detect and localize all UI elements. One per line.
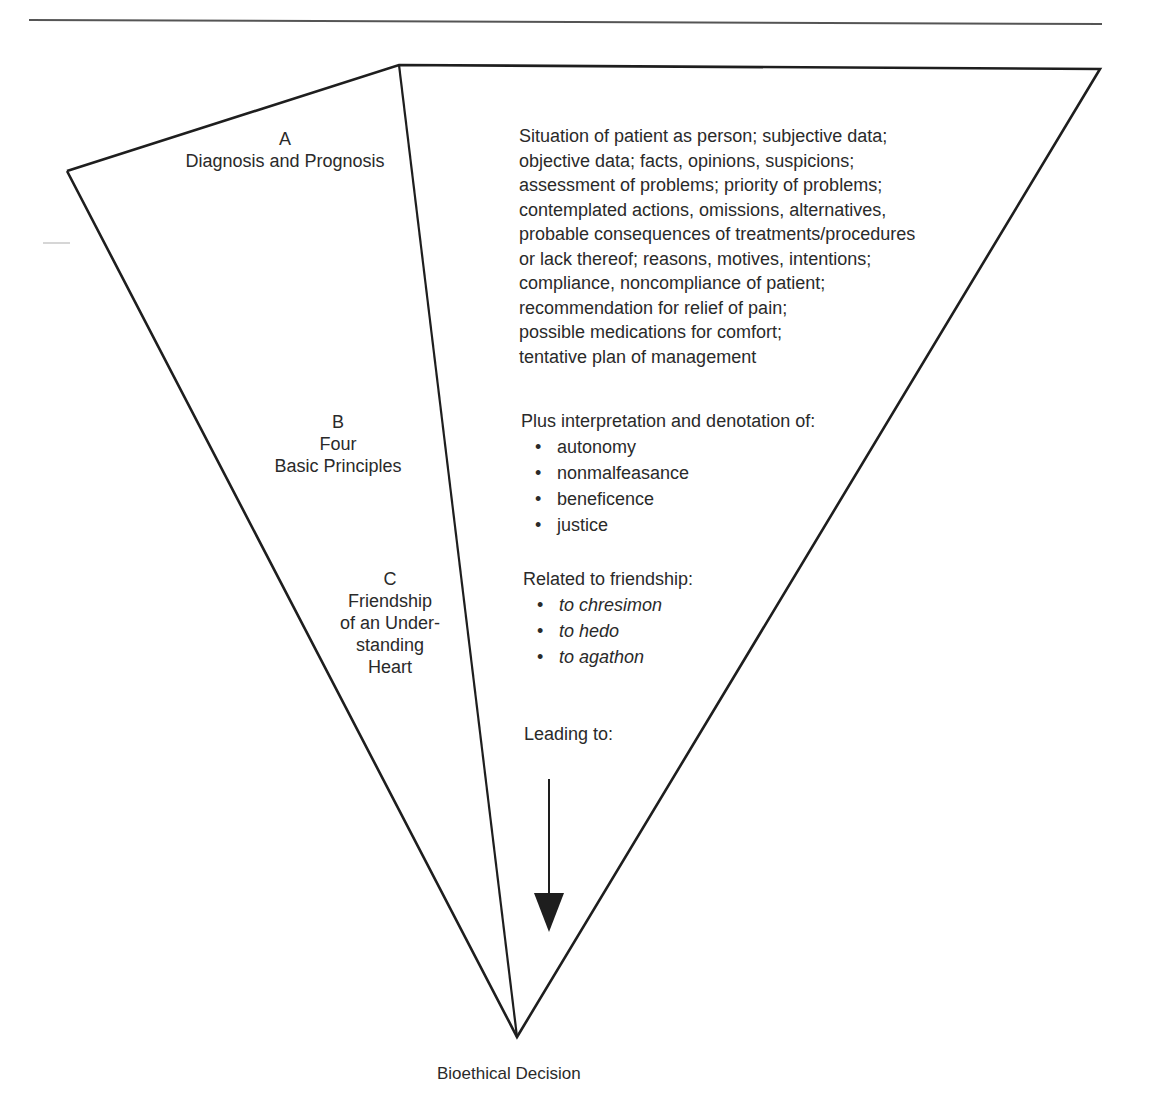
list-item: to agathon [537, 644, 693, 670]
list-item: to chresimon [537, 592, 693, 618]
section-a-label: A Diagnosis and Prognosis [160, 128, 410, 172]
detail-line: or lack thereof; reasons, motives, inten… [519, 247, 915, 272]
outcome-label: Bioethical Decision [437, 1062, 581, 1087]
section-c-details: Related to friendship: to chresimon to h… [523, 566, 693, 670]
leading-to-label: Leading to: [524, 722, 613, 747]
principles-list: autonomy nonmalfeasance beneficence just… [521, 434, 815, 538]
list-item: to hedo [537, 618, 693, 644]
friendship-list: to chresimon to hedo to agathon [523, 592, 693, 670]
principles-heading: Plus interpretation and denotation of: [521, 408, 815, 434]
section-b-letter: B [248, 411, 428, 433]
section-b-title-line2: Basic Principles [248, 455, 428, 477]
section-b-label: B Four Basic Principles [248, 411, 428, 477]
section-b-details: Plus interpretation and denotation of: a… [521, 408, 815, 538]
list-item: justice [535, 512, 815, 538]
list-item: autonomy [535, 434, 815, 460]
top-rule [29, 20, 1102, 24]
section-c-label: C Friendship of an Under- standing Heart [330, 568, 450, 678]
section-c-letter: C [330, 568, 450, 590]
section-c-title-line2: of an Under- [330, 612, 450, 634]
detail-line: objective data; facts, opinions, suspici… [519, 149, 915, 174]
triangle-divider [399, 65, 517, 1037]
section-a-details: Situation of patient as person; subjecti… [519, 124, 915, 369]
section-c-title-line3: standing [330, 634, 450, 656]
detail-line: probable consequences of treatments/proc… [519, 222, 915, 247]
detail-line: contemplated actions, omissions, alterna… [519, 198, 915, 223]
section-b-title-line1: Four [248, 433, 428, 455]
section-a-title: Diagnosis and Prognosis [160, 150, 410, 172]
section-c-title-line1: Friendship [330, 590, 450, 612]
list-item: beneficence [535, 486, 815, 512]
section-a-letter: A [160, 128, 410, 150]
arrow-down-icon [534, 779, 564, 932]
detail-line: assessment of problems; priority of prob… [519, 173, 915, 198]
detail-line: tentative plan of management [519, 345, 915, 370]
section-c-title-line4: Heart [330, 656, 450, 678]
list-item: nonmalfeasance [535, 460, 815, 486]
friendship-heading: Related to friendship: [523, 566, 693, 592]
detail-line: Situation of patient as person; subjecti… [519, 124, 915, 149]
detail-line: recommendation for relief of pain; [519, 296, 915, 321]
detail-line: possible medications for comfort; [519, 320, 915, 345]
detail-line: compliance, noncompliance of patient; [519, 271, 915, 296]
